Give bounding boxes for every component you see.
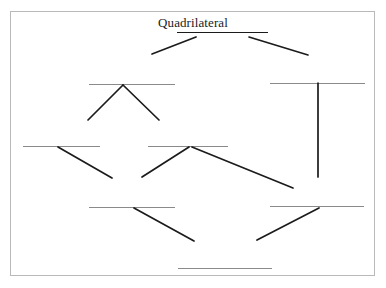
connector-center2-to-left3 [142,147,189,177]
connector-left2-to-left3 [58,147,112,178]
connector-center2-to-right3 [192,147,293,188]
tree-graphic [0,0,386,288]
connector-root-to-right [249,37,308,55]
connector-left1-to-center2 [123,85,159,120]
connector-root-to-left [152,37,196,54]
connector-left3-to-bottom [134,208,194,241]
connector-left1-to-left2 [88,85,123,120]
connector-right3-to-bottom [257,208,319,240]
diagram-canvas: Quadrilateral [0,0,386,288]
root-node-label: Quadrilateral [0,15,386,30]
